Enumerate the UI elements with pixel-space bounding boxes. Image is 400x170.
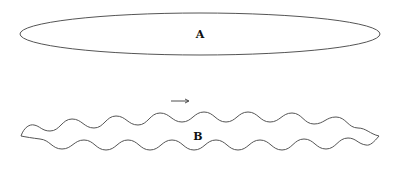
diagram-canvas: A B: [0, 0, 400, 170]
right-arrow-icon: [171, 99, 189, 103]
label-b: B: [193, 130, 202, 143]
label-a: A: [195, 28, 205, 41]
